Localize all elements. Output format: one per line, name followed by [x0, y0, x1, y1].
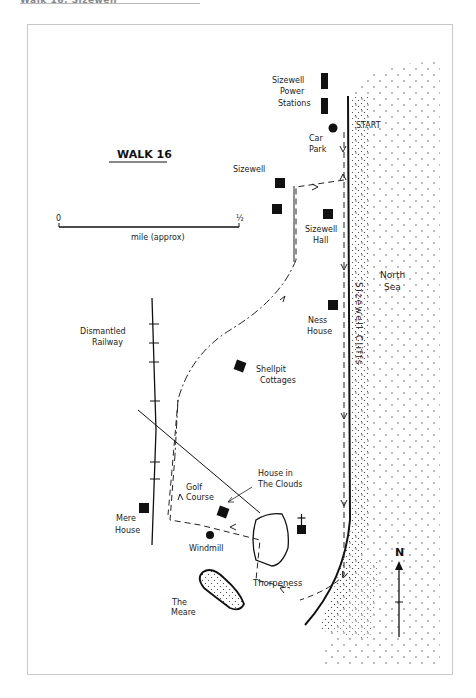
shellpit-cottages-marker — [234, 360, 247, 373]
label-thorpeness: Thorpeness — [252, 578, 303, 588]
car-park-marker — [329, 124, 338, 133]
ness-house-marker — [328, 300, 338, 310]
label-ness-2: House — [307, 327, 332, 336]
label-golf-1: Golf — [186, 483, 202, 492]
label-sizewell: Sizewell — [233, 165, 265, 174]
building-marker — [275, 178, 285, 188]
label-mere-house-1: Mere — [116, 514, 136, 523]
label-windmill: Windmill — [189, 544, 224, 553]
label-sea-2: Sea — [384, 282, 401, 292]
mere-house-marker — [139, 503, 149, 513]
north-label: N — [395, 546, 404, 559]
label-sea-1: North — [380, 270, 405, 280]
label-meare-2: Meare — [171, 608, 196, 617]
label-cliffs: Sizewell Cliffs — [354, 282, 364, 366]
label-shellpit-2: Cottages — [260, 376, 296, 385]
the-meare — [200, 570, 244, 609]
label-power-1: Sizewell — [272, 76, 304, 85]
windmill-marker — [206, 531, 214, 539]
walk-map: Sizewell Power Stations START Car Park S… — [0, 0, 476, 698]
power-station-marker — [321, 98, 328, 114]
label-railway-1: Dismantled — [80, 327, 126, 336]
label-power-3: Stations — [278, 99, 311, 108]
church-marker — [297, 514, 306, 534]
scale-start: 0 — [56, 214, 61, 223]
label-clouds-2: The Clouds — [257, 480, 302, 489]
scale-bar: 0 ½ mile (approx) — [56, 214, 244, 242]
dismantled-railway — [149, 298, 160, 545]
label-ness-1: Ness — [308, 316, 327, 325]
label-hall-2: Hall — [313, 236, 328, 245]
house-in-clouds-marker — [217, 506, 230, 519]
map-title: WALK 16 — [117, 148, 172, 161]
sizewell-hall-marker — [323, 209, 333, 219]
label-power-2: Power — [280, 87, 305, 96]
label-carpark-2: Park — [309, 145, 327, 154]
label-hall-1: Sizewell — [305, 225, 337, 234]
power-station-marker — [321, 73, 328, 89]
label-clouds-1: House in — [258, 469, 293, 478]
building-marker — [272, 204, 282, 214]
label-meare-1: The — [171, 598, 187, 607]
scale-end: ½ — [236, 214, 244, 223]
label-shellpit-1: Shellpit — [256, 365, 286, 374]
label-railway-2: Railway — [92, 338, 123, 347]
label-start: START — [356, 121, 381, 130]
scale-unit: mile (approx) — [131, 233, 185, 242]
label-golf-2: Course — [186, 493, 214, 502]
label-mere-house-2: House — [115, 526, 140, 535]
label-carpark-1: Car — [309, 134, 323, 143]
